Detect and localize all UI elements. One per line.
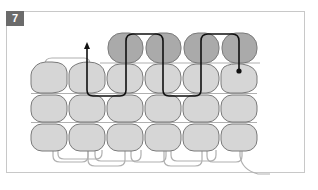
bead-row-4 [31,124,257,151]
arrow-up-icon [84,42,90,49]
bead-row-new-dark [108,33,257,63]
thread-end-dot [236,68,241,73]
beadwork-diagram [0,0,318,190]
bead-row-2 [31,62,257,93]
bead-row-3 [31,95,257,122]
